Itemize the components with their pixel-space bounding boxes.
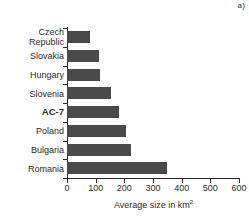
bar-chart-figure: a) Czech RepublicSlovakiaHungarySlovenia… [0,0,249,221]
bar-row [67,84,239,103]
bar [67,106,119,118]
bar [67,87,111,99]
category-label: Poland [1,126,64,136]
category-axis-labels: Czech RepublicSlovakiaHungarySloveniaAC-… [0,28,64,178]
bar-row [67,103,239,122]
bar-row [67,28,239,47]
category-label: Slovakia [1,51,64,61]
value-axis-tick-labels: 0100200300400500600 [67,183,240,195]
category-label: AC-7 [1,107,64,117]
bar [67,50,99,62]
plot-area [67,28,239,178]
bar [67,31,90,43]
category-label: Czech Republic [1,27,64,47]
bar-row [67,47,239,66]
bar-row [67,66,239,85]
bar-row [67,141,239,160]
bar [67,144,131,156]
bar [67,162,167,174]
category-label: Hungary [1,70,64,80]
category-label: Romania [1,164,64,174]
panel-letter: a) [237,1,245,11]
bar-row [67,122,239,141]
bar [67,125,126,137]
bar-row [67,159,239,178]
value-axis-title: Average size in km2 [67,200,240,211]
superscript-two: 2 [190,199,193,205]
bar [67,69,100,81]
category-label: Bulgaria [1,145,64,155]
value-axis-tick-label: 600 [219,183,249,194]
category-label: Slovenia [1,89,64,99]
